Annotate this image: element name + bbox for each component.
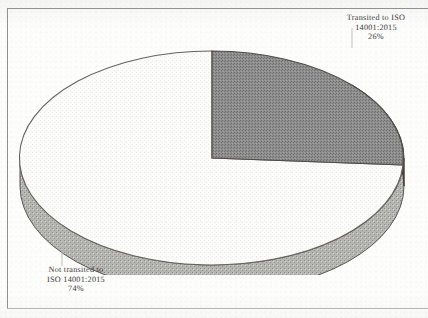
slice-label-not-transited-line1: Not transited to — [24, 265, 128, 275]
slice-label-transited-percent: 26% — [330, 32, 422, 42]
pie-top-face — [19, 51, 403, 265]
slice-label-not-transited-line2: ISO 14001:2015 — [24, 275, 128, 285]
slice-label-transited-line1: Transited to ISO — [330, 13, 422, 23]
figure-container: Transited to ISO 14001:2015 26% Not tran… — [0, 0, 428, 318]
pie-slice-transited — [212, 51, 403, 165]
slice-label-not-transited-percent: 74% — [24, 284, 128, 294]
slice-label-transited: Transited to ISO 14001:2015 26% — [330, 13, 422, 42]
slice-label-transited-line2: 14001:2015 — [330, 23, 422, 33]
slice-label-not-transited: Not transited to ISO 14001:2015 74% — [24, 265, 128, 294]
